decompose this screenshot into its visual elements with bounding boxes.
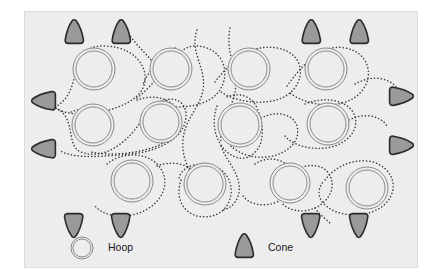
- cone-icon: [350, 214, 368, 238]
- cone-icon: [390, 136, 414, 154]
- agility-course-panel: Hoop Cone: [24, 11, 418, 268]
- cone-icon: [302, 20, 320, 44]
- hoop-icon: [184, 163, 226, 205]
- course-scene: [25, 12, 419, 269]
- cone-icon: [390, 87, 414, 105]
- legend-icon-layer: [71, 234, 253, 259]
- hoop-icon: [111, 160, 153, 202]
- hoop-icon: [140, 101, 182, 143]
- cone-icon: [112, 20, 130, 44]
- cone-icon: [65, 214, 83, 238]
- hoop-icon: [307, 103, 349, 145]
- cone-icon: [302, 214, 320, 238]
- legend-label-hoop: Hoop: [108, 241, 133, 253]
- cone-icon: [112, 214, 130, 238]
- cone-icon: [32, 92, 56, 110]
- diagram-canvas: Hoop Cone: [0, 0, 443, 280]
- cone-icon: [350, 20, 368, 44]
- hoop-icon: [73, 48, 115, 90]
- dotted-path: [349, 116, 387, 126]
- hoop-icon: [150, 48, 192, 90]
- hoop-icon: [346, 167, 388, 209]
- legend-cone-icon: [235, 234, 253, 258]
- legend-hoop-icon: [71, 237, 93, 259]
- cone-icon: [65, 20, 83, 44]
- dotted-path: [355, 78, 397, 88]
- hoop-icon: [218, 103, 262, 147]
- cone-icon: [32, 140, 56, 158]
- hoop-icon: [270, 163, 310, 203]
- hoop-icon: [72, 104, 114, 146]
- hoop-icon: [228, 48, 270, 90]
- hoop-layer: [72, 48, 388, 209]
- hoop-icon: [305, 48, 347, 90]
- legend-label-cone: Cone: [268, 241, 293, 253]
